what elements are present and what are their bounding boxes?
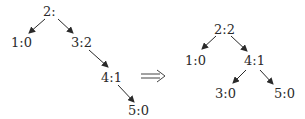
node-before-5: 5:0 — [128, 104, 149, 117]
node-after-1: 1:0 — [185, 54, 206, 67]
node-after-4: 4:1 — [244, 54, 265, 67]
edge-a2-1 — [202, 36, 216, 49]
node-after-2: 2:2 — [214, 23, 235, 36]
double-arrow-icon — [141, 70, 165, 82]
edge-4-5 — [118, 85, 134, 102]
edge-a2-4 — [231, 36, 247, 51]
node-before-2: 2: — [43, 5, 56, 18]
edge-2-3 — [58, 19, 73, 33]
node-before-4: 4:1 — [101, 71, 122, 84]
node-after-5: 5:0 — [274, 87, 295, 100]
edge-a4-5 — [260, 70, 273, 84]
edge-2-1 — [29, 19, 45, 33]
diagram-canvas: 2: 1:0 3:2 4:1 5:0 2:2 1:0 4:1 3:0 5:0 — [0, 0, 305, 119]
node-before-3: 3:2 — [71, 36, 92, 49]
node-before-1: 1:0 — [11, 36, 32, 49]
edge-3-4 — [89, 50, 108, 67]
node-after-3: 3:0 — [215, 87, 236, 100]
edge-a4-3 — [233, 70, 246, 83]
